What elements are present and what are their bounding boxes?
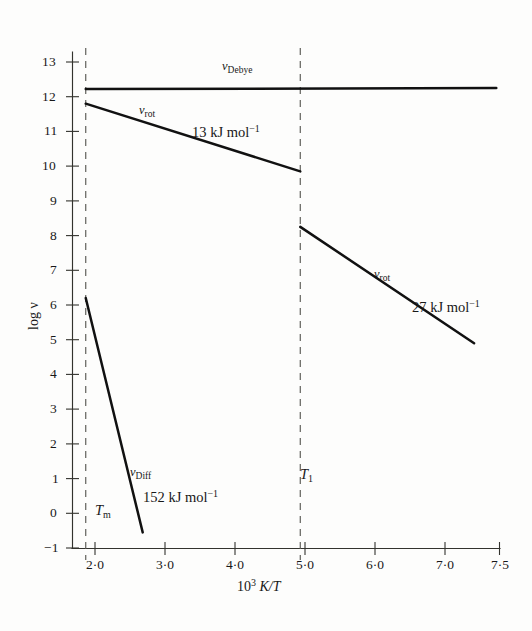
y-tick-label: 5 [50, 333, 57, 347]
x-axis-title-prefix: 10 [237, 579, 251, 594]
x-tick-label: 3·0 [148, 558, 182, 572]
annotation-energy-27: 27 kJ mol−1 [412, 300, 480, 315]
series-label-nu-rot-low: νrot [139, 104, 155, 117]
y-tick-label: 4 [50, 367, 57, 381]
x-tick-label: 2·0 [78, 558, 112, 572]
y-tick-label: 6 [50, 298, 57, 312]
chart-plot-area [0, 0, 532, 631]
x-tick-label: 7·5 [483, 558, 517, 572]
energy-exponent: −1 [207, 488, 218, 499]
subscript: Debye [228, 65, 253, 75]
subscript: Diff [136, 471, 152, 481]
subscript: rot [380, 273, 391, 283]
marker-subscript: 1 [308, 473, 313, 484]
annotation-energy-13: 13 kJ mol−1 [192, 125, 260, 140]
series-label-nu-debye: νDebye [222, 60, 252, 73]
energy-exponent: −1 [249, 123, 260, 134]
subscript: rot [145, 109, 156, 119]
series-label-nu-rot-high: νrot [374, 268, 390, 281]
y-tick-label: −1 [44, 541, 59, 555]
figure-container: 13 12 11 10 9 8 7 6 5 4 3 2 1 0 −1 2·0 3… [0, 0, 532, 631]
nu-glyph: ν [130, 465, 136, 479]
y-tick-label: 9 [50, 194, 57, 208]
nu-glyph: ν [222, 59, 228, 73]
y-tick-label: 7 [50, 263, 57, 277]
x-axis-title-exponent: 3 [251, 577, 256, 588]
nu-glyph: ν [139, 103, 145, 117]
energy-value: 27 kJ mol [412, 299, 469, 315]
energy-exponent: −1 [469, 298, 480, 309]
y-tick-label: 0 [50, 506, 57, 520]
y-tick-label: 12 [42, 90, 56, 104]
y-tick-label: 1 [52, 472, 59, 486]
y-tick-label: 2 [50, 437, 57, 451]
marker-symbol: T [300, 466, 308, 482]
energy-value: 13 kJ mol [192, 124, 249, 140]
y-axis-title: log ν [27, 302, 41, 330]
y-tick-label: 8 [50, 229, 57, 243]
y-tick-label: 3 [50, 402, 57, 416]
nu-glyph: ν [374, 267, 380, 281]
x-axis-title: 103 K/T [237, 580, 281, 594]
annotation-energy-152: 152 kJ mol−1 [143, 490, 218, 505]
x-tick-label: 6·0 [358, 558, 392, 572]
series-nu-diff [86, 298, 143, 532]
marker-label-T-transition: T1 [300, 467, 313, 482]
series-nu-debye [86, 88, 497, 89]
x-axis-title-suffix: K/T [260, 579, 281, 594]
series-label-nu-diff: νDiff [130, 466, 151, 479]
marker-symbol: T [95, 502, 103, 518]
x-tick-label: 7·0 [428, 558, 462, 572]
energy-value: 152 kJ mol [143, 489, 207, 505]
y-tick-label: 13 [42, 55, 56, 69]
x-tick-label: 5·0 [288, 558, 322, 572]
x-tick-label: 4·0 [218, 558, 252, 572]
marker-label-T-melting: Tm [95, 503, 111, 518]
y-tick-label: 10 [42, 159, 56, 173]
series-nu-rot-high [300, 227, 474, 343]
y-tick-label: 11 [44, 124, 57, 138]
marker-subscript: m [103, 509, 111, 520]
